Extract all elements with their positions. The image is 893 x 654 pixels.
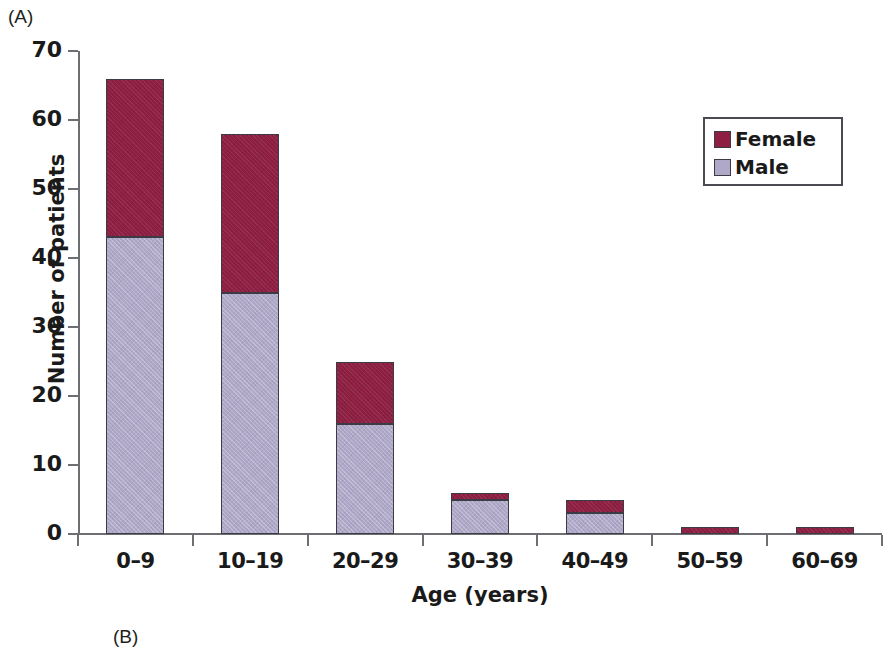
bar-segment-female	[221, 134, 279, 293]
x-tick	[422, 535, 424, 546]
figure-panel-a: (A) 010203040506070 0–910–1920–2930–3940…	[0, 0, 893, 654]
bar-segment-female	[681, 527, 739, 534]
legend-swatch-male	[714, 159, 731, 176]
bar-segment-male	[106, 237, 164, 534]
y-tick-label: 0	[2, 520, 62, 545]
y-tick	[68, 326, 78, 328]
bar-group	[796, 527, 854, 534]
y-tick	[68, 119, 78, 121]
y-tick	[68, 395, 78, 397]
bar-group	[106, 79, 164, 534]
bar-segment-male	[451, 500, 509, 535]
y-tick	[68, 257, 78, 259]
y-tick-label: 10	[2, 451, 62, 476]
x-tick-label: 10–19	[193, 549, 308, 573]
x-tick-label: 40–49	[537, 549, 652, 573]
y-tick-label: 70	[2, 37, 62, 62]
x-axis-title: Age (years)	[78, 583, 882, 607]
bar-segment-female	[796, 527, 854, 534]
panel-b-label: (B)	[113, 626, 138, 648]
y-axis-title: Number of patients	[45, 119, 69, 419]
legend-item-female: Female	[714, 125, 841, 153]
bar-segment-female	[451, 493, 509, 500]
bar-group	[451, 493, 509, 534]
bar-group	[681, 527, 739, 534]
x-tick	[651, 535, 653, 546]
y-tick	[68, 188, 78, 190]
bar-segment-female	[106, 79, 164, 238]
legend-label-female: Female	[735, 129, 816, 149]
bar-segment-female	[566, 500, 624, 514]
x-tick	[77, 535, 79, 546]
x-tick-label: 20–29	[308, 549, 423, 573]
legend-item-male: Male	[714, 153, 841, 181]
y-tick	[68, 464, 78, 466]
x-tick	[881, 535, 883, 546]
y-tick	[68, 50, 78, 52]
legend-label-male: Male	[735, 157, 789, 177]
bar-group	[221, 134, 279, 534]
bar-segment-male	[336, 424, 394, 534]
x-tick-label: 50–59	[652, 549, 767, 573]
x-tick-label: 30–39	[423, 549, 538, 573]
x-tick	[192, 535, 194, 546]
x-tick-label: 0–9	[78, 549, 193, 573]
bar-chart: 010203040506070 0–910–1920–2930–3940–495…	[0, 0, 893, 600]
x-tick	[307, 535, 309, 546]
x-tick	[536, 535, 538, 546]
bar-group	[336, 362, 394, 535]
bar-segment-male	[566, 513, 624, 534]
bar-segment-male	[221, 293, 279, 535]
bar-segment-female	[336, 362, 394, 424]
bar-group	[566, 500, 624, 535]
x-tick	[766, 535, 768, 546]
chart-legend: Female Male	[703, 117, 843, 186]
legend-swatch-female	[714, 131, 731, 148]
x-tick-label: 60–69	[767, 549, 882, 573]
